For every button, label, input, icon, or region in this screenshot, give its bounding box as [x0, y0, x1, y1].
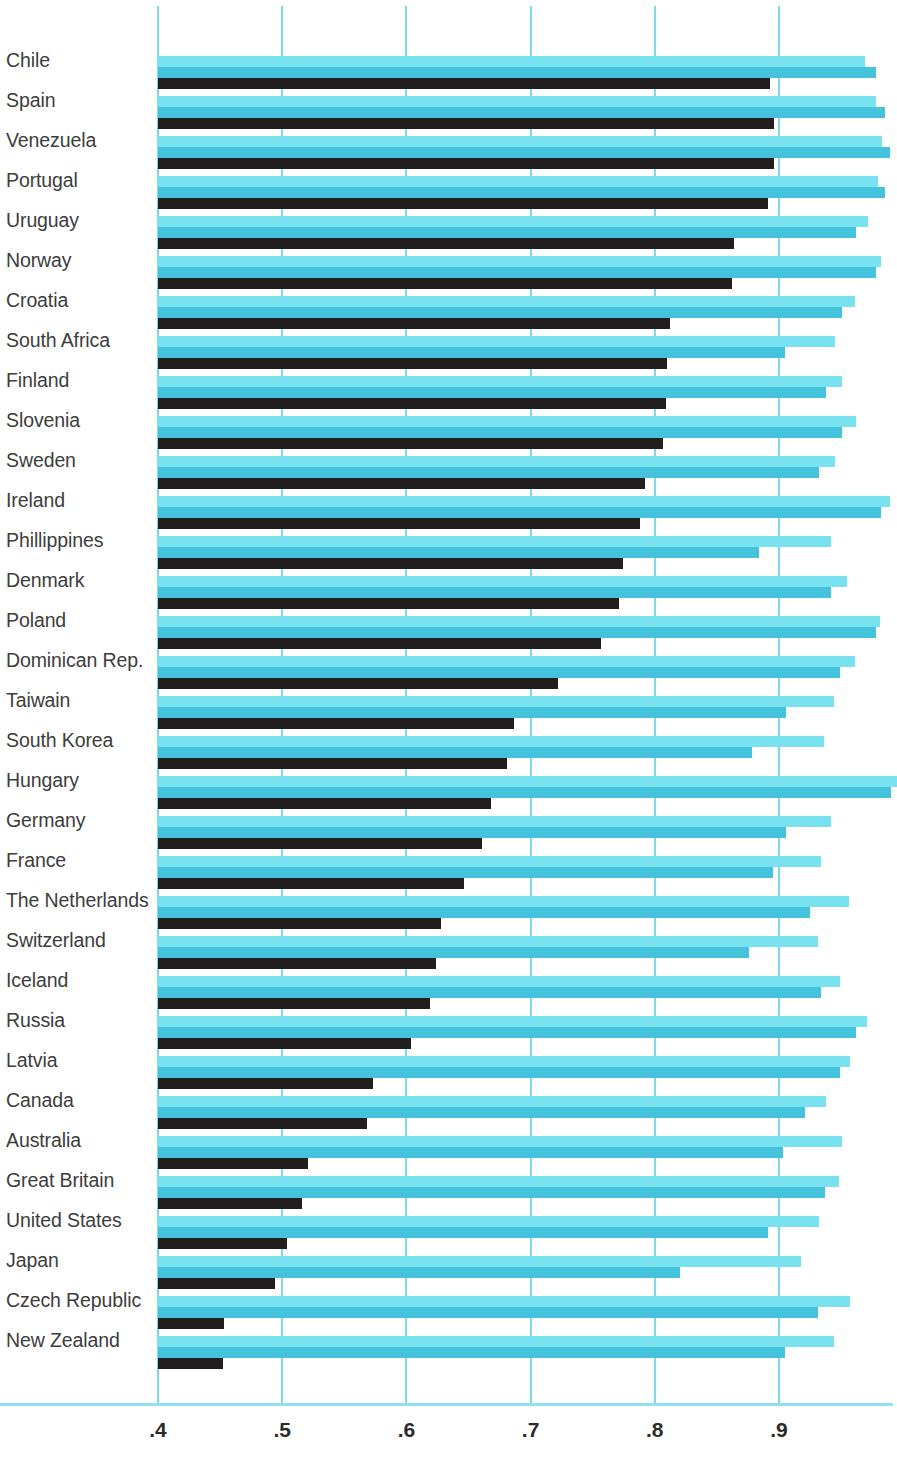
bar-series-mid: [158, 1107, 805, 1118]
country-label: Hungary: [6, 769, 154, 791]
chart-row: Australia: [0, 1128, 893, 1168]
x-tick-label: .5: [262, 1418, 302, 1442]
bar-series-mid: [158, 1147, 783, 1158]
bar-series-mid: [158, 747, 752, 758]
bar-series-light: [158, 616, 880, 627]
bar-series-light: [158, 936, 818, 947]
country-label: United States: [6, 1209, 154, 1231]
chart-row: Czech Republic: [0, 1288, 893, 1328]
country-label: Poland: [6, 609, 154, 631]
chart-row: Dominican Rep.: [0, 648, 893, 688]
chart-row: Venezuela: [0, 128, 893, 168]
country-label: South Africa: [6, 329, 154, 351]
bar-series-light: [158, 776, 897, 787]
chart-row: Ireland: [0, 488, 893, 528]
x-axis-tick-labels: .4.5.6.7.8.9: [0, 1418, 893, 1458]
chart-row: Hungary: [0, 768, 893, 808]
chart-row: Latvia: [0, 1048, 893, 1088]
chart-row: South Africa: [0, 328, 893, 368]
bar-series-light: [158, 1096, 826, 1107]
bar-series-mid: [158, 907, 810, 918]
bar-series-light: [158, 576, 847, 587]
bar-series-mid: [158, 587, 831, 598]
country-label: Canada: [6, 1089, 154, 1111]
bar-series-mid: [158, 467, 819, 478]
country-label: Russia: [6, 1009, 154, 1031]
bar-series-light: [158, 1336, 834, 1347]
bar-series-mid: [158, 787, 891, 798]
bar-series-light: [158, 656, 855, 667]
bar-series-mid: [158, 867, 773, 878]
bar-series-mid: [158, 627, 876, 638]
bar-series-mid: [158, 1187, 825, 1198]
country-label: Norway: [6, 249, 154, 271]
bar-series-light: [158, 176, 878, 187]
country-label: Uruguay: [6, 209, 154, 231]
bar-series-light: [158, 1136, 842, 1147]
x-tick-label: .7: [511, 1418, 551, 1442]
chart-row: Iceland: [0, 968, 893, 1008]
chart-row: Norway: [0, 248, 893, 288]
chart-row: Denmark: [0, 568, 893, 608]
bar-series-light: [158, 136, 882, 147]
bar-series-light: [158, 696, 834, 707]
bar-series-mid: [158, 1027, 856, 1038]
chart-row: Phillippines: [0, 528, 893, 568]
bar-series-light: [158, 856, 821, 867]
bar-series-mid: [158, 667, 840, 678]
country-label: Denmark: [6, 569, 154, 591]
chart-row: France: [0, 848, 893, 888]
bar-series-light: [158, 296, 855, 307]
bar-series-light: [158, 256, 881, 267]
country-label: France: [6, 849, 154, 871]
bar-series-mid: [158, 107, 885, 118]
bar-series-mid: [158, 347, 785, 358]
x-tick-label: .8: [635, 1418, 675, 1442]
bar-series-light: [158, 496, 890, 507]
bar-series-mid: [158, 387, 826, 398]
bar-series-mid: [158, 307, 842, 318]
country-label: Dominican Rep.: [6, 649, 154, 671]
chart-row: Great Britain: [0, 1168, 893, 1208]
bar-series-light: [158, 536, 831, 547]
bar-series-light: [158, 976, 840, 987]
chart-row: Taiwain: [0, 688, 893, 728]
bar-series-light: [158, 376, 842, 387]
bar-series-mid: [158, 187, 885, 198]
country-label: Taiwain: [6, 689, 154, 711]
x-tick-label: .9: [759, 1418, 799, 1442]
chart-row: Russia: [0, 1008, 893, 1048]
bar-series-mid: [158, 827, 786, 838]
chart-row: Spain: [0, 88, 893, 128]
country-label: Great Britain: [6, 1169, 154, 1191]
bar-series-light: [158, 1296, 850, 1307]
bar-series-light: [158, 1016, 867, 1027]
country-label: The Netherlands: [6, 889, 154, 911]
bar-series-mid: [158, 707, 786, 718]
country-label: Japan: [6, 1249, 154, 1271]
bar-series-light: [158, 416, 856, 427]
country-label: Croatia: [6, 289, 154, 311]
country-label: New Zealand: [6, 1329, 154, 1351]
bar-series-light: [158, 1256, 801, 1267]
country-label: Venezuela: [6, 129, 154, 151]
country-label: Phillippines: [6, 529, 154, 551]
chart-row: The Netherlands: [0, 888, 893, 928]
bar-series-light: [158, 1216, 819, 1227]
x-axis-line: [0, 1403, 893, 1406]
country-label: Portugal: [6, 169, 154, 191]
country-label: Spain: [6, 89, 154, 111]
chart-row: South Korea: [0, 728, 893, 768]
country-label: Switzerland: [6, 929, 154, 951]
bar-series-light: [158, 1176, 839, 1187]
bar-series-mid: [158, 1307, 818, 1318]
bar-series-light: [158, 216, 868, 227]
bar-series-mid: [158, 547, 759, 558]
country-label: Ireland: [6, 489, 154, 511]
chart-row: Uruguay: [0, 208, 893, 248]
bar-series-light: [158, 56, 865, 67]
bar-series-light: [158, 96, 876, 107]
bar-series-dark: [158, 1358, 223, 1369]
chart-row: New Zealand: [0, 1328, 893, 1368]
